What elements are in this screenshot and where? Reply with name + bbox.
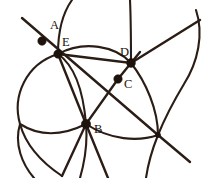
point-dot-a: A xyxy=(38,37,46,45)
ray-group xyxy=(22,18,200,178)
point-dot-e: E xyxy=(54,50,62,58)
point-dot-b: B xyxy=(81,119,90,128)
point-label-e: E xyxy=(62,35,70,49)
arc-top-right-down xyxy=(130,0,131,63)
point-label-a: A xyxy=(50,18,59,32)
point-label-b: B xyxy=(94,122,102,136)
point-dot-c: C xyxy=(114,75,122,83)
ray-d-c-b xyxy=(62,52,140,176)
ray-a-e-b-f xyxy=(22,18,190,162)
circle-left-lower-arc xyxy=(20,124,86,133)
geometry-figure: A E D C B F A E D C B xyxy=(0,0,212,178)
arc-left-bottom xyxy=(18,124,34,178)
point-label-c: C xyxy=(124,77,132,91)
geometry-canvas: A E D C B F A E D C B xyxy=(0,0,212,178)
arc-far-right xyxy=(158,10,200,135)
point-dot-f: F xyxy=(155,132,160,137)
point-label-d: D xyxy=(120,45,129,59)
arc-right-lower xyxy=(146,135,158,178)
arc-group xyxy=(18,0,200,178)
circle-left-large-arc xyxy=(18,54,62,176)
ray-e-b-down xyxy=(58,54,108,178)
point-dot-d: D xyxy=(127,59,136,68)
